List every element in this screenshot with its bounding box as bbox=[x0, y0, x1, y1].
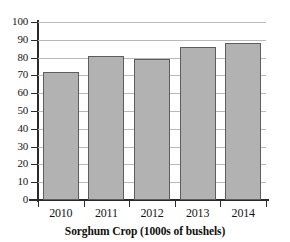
y-axis-tick-label: 10 bbox=[0, 176, 28, 187]
y-axis-tick-mark bbox=[31, 200, 38, 201]
y-axis-tick-label: 20 bbox=[0, 158, 28, 169]
y-axis-tick-mark bbox=[31, 129, 38, 130]
y-axis-tick-mark bbox=[31, 58, 38, 59]
y-axis-tick-mark bbox=[31, 147, 38, 148]
y-axis-tick-label: 0 bbox=[0, 194, 28, 205]
bar-2012 bbox=[134, 59, 170, 200]
bar-2013 bbox=[180, 47, 216, 200]
y-axis-tick-mark bbox=[31, 22, 38, 23]
gridline bbox=[38, 40, 266, 41]
bar-2014 bbox=[225, 43, 261, 200]
y-axis-tick-label: 90 bbox=[0, 34, 28, 45]
y-axis-tick-mark bbox=[31, 93, 38, 94]
x-axis-tick-label-2012: 2012 bbox=[129, 207, 175, 220]
x-axis-tick-label-2011: 2011 bbox=[84, 207, 130, 220]
y-axis-tick-mark bbox=[31, 111, 38, 112]
y-axis-tick-label: 70 bbox=[0, 69, 28, 80]
y-axis-tick-label: 40 bbox=[0, 123, 28, 134]
x-axis-tick-label-2013: 2013 bbox=[175, 207, 221, 220]
y-axis-tick-label: 30 bbox=[0, 141, 28, 152]
x-axis-tick-label-2010: 2010 bbox=[38, 207, 84, 220]
plot-area bbox=[38, 22, 266, 200]
x-axis-tick-mark bbox=[266, 201, 267, 207]
bar-chart-figure: 1009080706050403020100 20102011201220132… bbox=[0, 0, 290, 242]
y-axis-tick-label: 100 bbox=[0, 16, 28, 27]
y-axis-tick-label: 50 bbox=[0, 105, 28, 116]
y-axis-tick-mark bbox=[31, 164, 38, 165]
y-axis-tick-label: 80 bbox=[0, 52, 28, 63]
y-axis-tick-mark bbox=[31, 75, 38, 76]
y-axis-tick-mark bbox=[31, 40, 38, 41]
y-axis-tick-label: 60 bbox=[0, 87, 28, 98]
chart-title: Sorghum Crop (1000s of bushels) bbox=[0, 225, 290, 237]
bar-2011 bbox=[88, 56, 124, 200]
gridline bbox=[38, 22, 266, 23]
y-axis-tick-mark bbox=[31, 182, 38, 183]
bar-2010 bbox=[43, 72, 79, 200]
x-axis-tick-label-2014: 2014 bbox=[220, 207, 266, 220]
